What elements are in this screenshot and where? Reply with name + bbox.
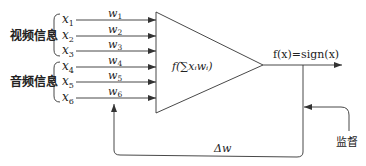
input-x3: x3 — [62, 43, 74, 59]
delta-w-label: Δw — [213, 142, 232, 155]
input-x1: x1 — [62, 12, 74, 28]
input-x6: x6 — [62, 90, 74, 106]
input-labels: x1 x2 x3 x4 x5 x6 — [62, 12, 74, 106]
weight-w3: w3 — [108, 38, 122, 52]
weight-w4: w4 — [108, 54, 122, 68]
supervision-label: 监督 — [336, 135, 358, 149]
output-label: f(x)=sign(x) — [273, 48, 339, 61]
neuron-function-label: f(∑xᵢwᵢ) — [171, 60, 213, 73]
perceptron-diagram: 视频信息 音频信息 x1 x2 x3 x4 x5 x6 w1 w2 w3 w4 … — [0, 0, 366, 166]
weight-labels: w1 w2 w3 w4 w5 w6 — [108, 7, 122, 99]
weight-w5: w5 — [108, 69, 122, 83]
weight-w2: w2 — [108, 23, 122, 37]
supervision-arrow — [304, 107, 349, 131]
weight-w6: w6 — [108, 85, 122, 99]
input-x2: x2 — [62, 28, 74, 44]
weight-w1: w1 — [108, 7, 122, 21]
input-x4: x4 — [62, 59, 74, 75]
input-x5: x5 — [62, 74, 74, 90]
